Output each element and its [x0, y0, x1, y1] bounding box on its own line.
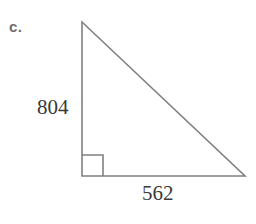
- horizontal-leg-length-label: 562: [142, 182, 174, 204]
- triangle-outline: [82, 22, 245, 176]
- vertical-leg-length-label: 804: [37, 96, 69, 118]
- figure-canvas: c. 804 562: [0, 0, 256, 224]
- right-angle-marker-icon: [82, 155, 103, 176]
- part-label: c.: [9, 19, 22, 35]
